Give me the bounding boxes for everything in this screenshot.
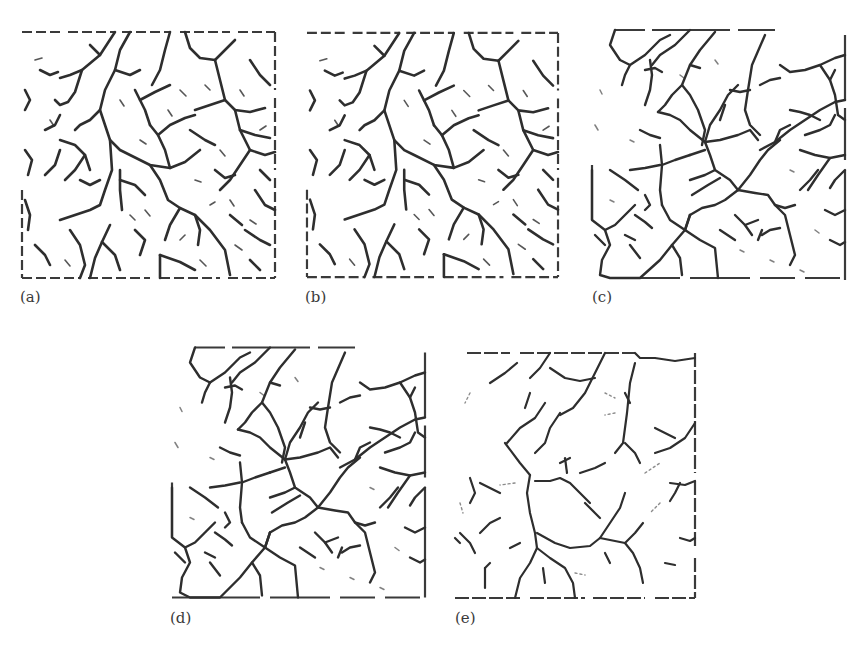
panel-b: (b): [305, 30, 560, 280]
panel-label-e: (e): [455, 611, 476, 626]
panel-label-a: (a): [20, 290, 41, 305]
panel-e: (e): [455, 353, 697, 598]
drainage-network-image-b: [305, 30, 560, 280]
panel-label-d: (d): [170, 611, 191, 626]
panel-d: (d): [170, 345, 425, 600]
panel-c: (c): [590, 30, 845, 280]
panel-label-b: (b): [305, 290, 326, 305]
panel-label-c: (c): [592, 290, 612, 305]
drainage-network-image-c: [590, 30, 845, 280]
panel-a: (a): [20, 30, 277, 280]
drainage-network-image-a: [20, 30, 277, 280]
drainage-network-image-d: [170, 345, 425, 600]
drainage-network-image-e: [455, 353, 697, 598]
